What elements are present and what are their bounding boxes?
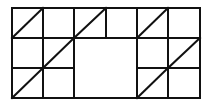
diagonal-line bbox=[168, 38, 200, 68]
diagonal-line bbox=[137, 68, 168, 98]
diagonal-line bbox=[43, 38, 74, 68]
diagonal-line bbox=[137, 8, 168, 38]
diagonal-line bbox=[12, 8, 43, 38]
grid-diagram bbox=[0, 0, 209, 102]
diagonal-line bbox=[74, 8, 106, 38]
diagonal-line bbox=[12, 68, 43, 98]
